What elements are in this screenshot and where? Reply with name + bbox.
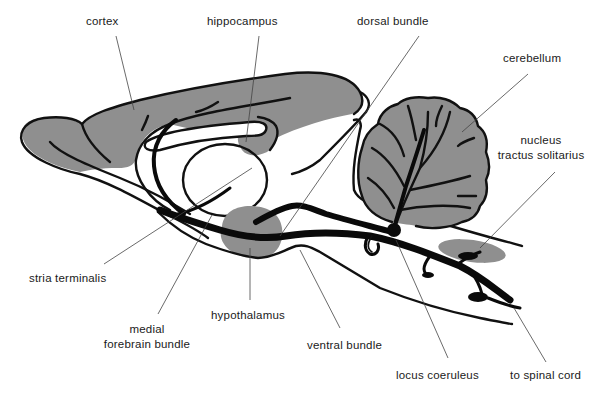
leader-nucleus-tractus-solitarius [480, 172, 555, 248]
leader-cerebellum [462, 74, 528, 132]
label-hippocampus: hippocampus [207, 14, 278, 29]
leader-medial-forebrain-bundle [158, 215, 212, 314]
label-cortex: cortex [86, 14, 119, 29]
label-nucleus-tractus-solitarius: nucleus tractus solitarius [491, 133, 591, 163]
label-ventral-bundle: ventral bundle [307, 338, 382, 353]
label-stria-terminalis: stria terminalis [29, 271, 106, 286]
thalamus-circle [183, 144, 267, 216]
leader-cortex [116, 36, 134, 110]
label-mfb-line1: medial [92, 322, 202, 337]
label-locus-coeruleus: locus coeruleus [396, 368, 479, 383]
label-to-spinal-cord: to spinal cord [510, 368, 581, 383]
label-dorsal-bundle: dorsal bundle [357, 14, 429, 29]
leader-spinal-cord [514, 308, 546, 362]
label-medial-forebrain-bundle: medial forebrain bundle [92, 322, 202, 352]
label-mfb-line2: forebrain bundle [92, 337, 202, 352]
label-nucleus-line1: nucleus [491, 133, 591, 148]
cerebellum-region [358, 97, 489, 228]
label-cerebellum: cerebellum [503, 51, 561, 66]
label-nucleus-line2: tractus solitarius [491, 148, 591, 163]
cortex-region [21, 73, 362, 238]
label-hypothalamus: hypothalamus [211, 308, 285, 323]
